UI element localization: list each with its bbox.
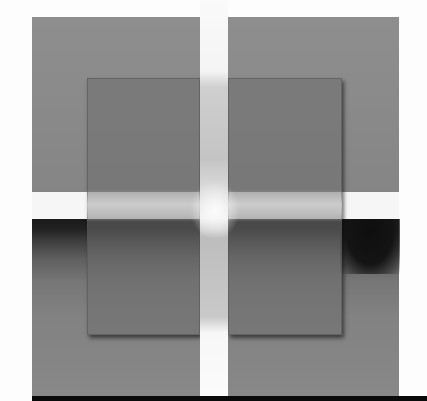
- image-canvas: [0, 0, 427, 401]
- dark-patch-right: [340, 219, 400, 274]
- bottom-bar: [32, 396, 427, 401]
- center-glow: [190, 180, 240, 240]
